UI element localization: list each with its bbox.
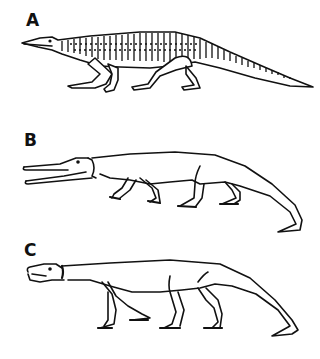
panel-b: B: [0, 120, 320, 235]
creature-b-illustration: [0, 120, 320, 235]
creature-a-illustration: [0, 0, 320, 110]
panel-a: A: [0, 0, 320, 110]
panel-c: C: [0, 230, 320, 359]
creature-c-illustration: [0, 230, 320, 359]
